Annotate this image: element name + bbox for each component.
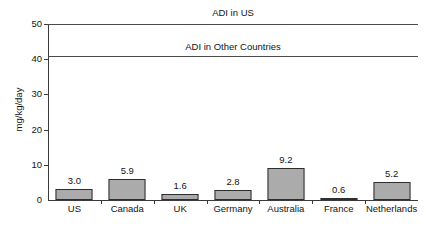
bar-value-label: 5.2: [385, 169, 398, 179]
bar-value-label: 5.9: [121, 166, 134, 176]
bar-chart: ADI in US ADI in Other Countries mg/kg/d…: [0, 0, 426, 235]
plot-area: 3.05.91.62.89.20.65.2: [48, 24, 418, 200]
bar-group: 3.0: [48, 24, 101, 200]
x-tick-label: France: [312, 203, 365, 214]
y-tick-label: 10: [0, 160, 42, 170]
y-tick-label: 40: [0, 54, 42, 64]
bar-value-label: 2.8: [226, 177, 239, 187]
y-tick-label: 0: [0, 195, 42, 205]
bar-group: 1.6: [154, 24, 207, 200]
y-tick-label: 20: [0, 125, 42, 135]
bar: [109, 179, 146, 200]
y-tick-label: 50: [0, 19, 42, 29]
bar-value-label: 1.6: [174, 181, 187, 191]
bar: [162, 194, 199, 200]
x-tick-label: Canada: [101, 203, 154, 214]
bar-group: 9.2: [259, 24, 312, 200]
x-axis-line: [48, 200, 418, 201]
bar: [320, 198, 357, 201]
y-tick-label: 30: [0, 89, 42, 99]
bar: [267, 168, 304, 200]
x-tick-label: UK: [154, 203, 207, 214]
bar-group: 5.2: [365, 24, 418, 200]
x-tick-label: US: [48, 203, 101, 214]
bar-value-label: 9.2: [279, 155, 292, 165]
bar: [373, 182, 410, 200]
bar: [56, 189, 93, 200]
reference-line-label-adi-us: ADI in US: [48, 7, 418, 18]
x-tick-label: Germany: [207, 203, 260, 214]
bar: [214, 190, 251, 200]
y-axis-title: mg/kg/day: [13, 70, 24, 150]
bar-value-label: 3.0: [68, 176, 81, 186]
bar-group: 2.8: [207, 24, 260, 200]
x-tick-label: Australia: [259, 203, 312, 214]
bar-group: 0.6: [312, 24, 365, 200]
bar-group: 5.9: [101, 24, 154, 200]
x-tick-label: Netherlands: [365, 203, 418, 214]
bar-value-label: 0.6: [332, 185, 345, 195]
